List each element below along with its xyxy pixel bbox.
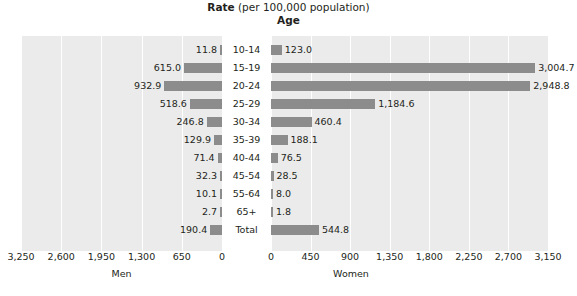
rate-title-strong: Rate bbox=[207, 1, 234, 13]
axis-tick-men: 3,250 bbox=[7, 251, 34, 262]
axis-tick-women: 1,350 bbox=[376, 251, 403, 262]
age-group-label: 30-34 bbox=[222, 113, 271, 131]
chart-row: 932.920-242,948.8 bbox=[0, 77, 577, 95]
axis-block: 3,2502,6001,9501,300650004509001,3501,80… bbox=[0, 251, 577, 296]
value-label-men: 190.4 bbox=[180, 221, 207, 239]
chart-title-block: Rate (per 100,000 population) Age bbox=[0, 2, 577, 26]
axis-title-men: Men bbox=[111, 268, 131, 279]
axis-tick-women: 2,250 bbox=[455, 251, 482, 262]
chart-row: 615.015-193,004.7 bbox=[0, 59, 577, 77]
value-label-women: 3,004.7 bbox=[538, 59, 574, 77]
chart-row: 246.830-34460.4 bbox=[0, 113, 577, 131]
age-group-label: 55-64 bbox=[222, 185, 271, 203]
age-group-label: 65+ bbox=[222, 203, 271, 221]
age-group-label: 20-24 bbox=[222, 77, 271, 95]
value-label-men: 10.1 bbox=[196, 185, 217, 203]
value-label-men: 71.4 bbox=[193, 149, 214, 167]
value-label-women: 460.4 bbox=[315, 113, 342, 131]
bar-men bbox=[210, 225, 222, 235]
age-group-label: 25-29 bbox=[222, 95, 271, 113]
bar-men bbox=[190, 99, 222, 109]
value-label-women: 8.0 bbox=[276, 185, 291, 203]
value-label-men: 2.7 bbox=[202, 203, 217, 221]
age-title: Age bbox=[0, 15, 577, 26]
bar-men bbox=[184, 63, 222, 73]
age-group-label: 15-19 bbox=[222, 59, 271, 77]
axis-tick-women: 0 bbox=[268, 251, 274, 262]
age-group-label: 10-14 bbox=[222, 41, 271, 59]
axis-tick-men: 2,600 bbox=[48, 251, 75, 262]
value-label-men: 615.0 bbox=[154, 59, 181, 77]
value-label-women: 76.5 bbox=[281, 149, 302, 167]
chart-row: 71.440-4476.5 bbox=[0, 149, 577, 167]
bar-women bbox=[271, 117, 312, 127]
axis-tick-women: 900 bbox=[341, 251, 359, 262]
value-label-women: 188.1 bbox=[291, 131, 318, 149]
value-label-women: 2,948.8 bbox=[533, 77, 569, 95]
axis-tick-women: 2,700 bbox=[495, 251, 522, 262]
chart-row: 129.935-39188.1 bbox=[0, 131, 577, 149]
value-label-men: 11.8 bbox=[196, 41, 217, 59]
bar-women bbox=[271, 207, 273, 217]
chart-row: 11.810-14123.0 bbox=[0, 41, 577, 59]
value-label-men: 32.3 bbox=[196, 167, 217, 185]
chart-row: 518.625-291,184.6 bbox=[0, 95, 577, 113]
bar-women bbox=[271, 81, 530, 91]
rate-title-rest: (per 100,000 population) bbox=[235, 1, 370, 13]
axis-tick-women: 450 bbox=[302, 251, 320, 262]
axis-tick-men: 650 bbox=[173, 251, 191, 262]
value-label-women: 123.0 bbox=[285, 41, 312, 59]
axis-tick-men: 1,950 bbox=[88, 251, 115, 262]
age-group-label: Total bbox=[222, 221, 271, 239]
chart-row: 32.345-5428.5 bbox=[0, 167, 577, 185]
value-label-women: 1.8 bbox=[276, 203, 291, 221]
age-group-label: 35-39 bbox=[222, 131, 271, 149]
value-label-women: 28.5 bbox=[277, 167, 298, 185]
chart-area: 11.810-14123.0615.015-193,004.7932.920-2… bbox=[0, 36, 577, 251]
bar-women bbox=[271, 171, 274, 181]
rate-title: Rate (per 100,000 population) bbox=[0, 2, 577, 13]
value-label-men: 129.9 bbox=[184, 131, 211, 149]
bar-women bbox=[271, 189, 273, 199]
axis-title-women: Women bbox=[333, 268, 369, 279]
age-group-label: 40-44 bbox=[222, 149, 271, 167]
bar-men bbox=[164, 81, 222, 91]
value-label-men: 246.8 bbox=[177, 113, 204, 131]
value-label-women: 544.8 bbox=[322, 221, 349, 239]
age-group-label: 45-54 bbox=[222, 167, 271, 185]
bar-women bbox=[271, 63, 535, 73]
axis-tick-women: 3,150 bbox=[534, 251, 561, 262]
chart-row: 190.4Total544.8 bbox=[0, 221, 577, 239]
axis-tick-men: 0 bbox=[219, 251, 225, 262]
bar-women bbox=[271, 153, 278, 163]
value-label-women: 1,184.6 bbox=[378, 95, 414, 113]
bar-men bbox=[207, 117, 222, 127]
value-label-men: 932.9 bbox=[134, 77, 161, 95]
bar-women bbox=[271, 225, 319, 235]
axis-tick-men: 1,300 bbox=[128, 251, 155, 262]
chart-row: 10.155-648.0 bbox=[0, 185, 577, 203]
bar-women bbox=[271, 135, 288, 145]
value-label-men: 518.6 bbox=[160, 95, 187, 113]
bar-women bbox=[271, 45, 282, 55]
chart-row: 2.765+1.8 bbox=[0, 203, 577, 221]
bar-men bbox=[214, 135, 222, 145]
axis-tick-women: 1,800 bbox=[416, 251, 443, 262]
bar-women bbox=[271, 99, 375, 109]
